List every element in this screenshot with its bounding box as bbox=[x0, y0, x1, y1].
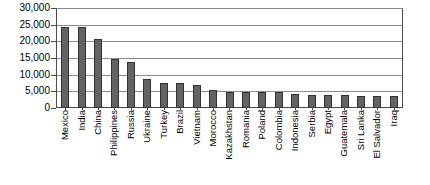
x-tick-label: Ukraine bbox=[142, 110, 152, 143]
bar bbox=[209, 90, 217, 108]
x-tick-label: Mexico bbox=[60, 110, 70, 140]
bar bbox=[111, 59, 119, 108]
y-tick-label: 0 bbox=[0, 103, 50, 113]
x-tick-label: Egypt bbox=[323, 110, 333, 134]
x-tick-label: Philippines bbox=[109, 110, 119, 156]
y-tick-label: 25,000 bbox=[0, 20, 50, 30]
y-tick-label: 20,000 bbox=[0, 36, 50, 46]
bar bbox=[275, 92, 283, 108]
x-axis-label-item: China bbox=[90, 110, 106, 182]
x-tick-label: Brazil bbox=[175, 110, 185, 134]
x-tick-label: Poland bbox=[257, 110, 267, 140]
x-axis-label-item: Colombia bbox=[271, 110, 287, 182]
x-tick-label: Sri Lanka bbox=[356, 110, 366, 150]
x-axis-label-item: Ukraine bbox=[139, 110, 155, 182]
x-tick-label: Kazakhstan bbox=[224, 110, 234, 160]
y-axis: 05,00010,00015,00020,00025,00030,000 bbox=[0, 0, 50, 116]
bar bbox=[78, 27, 86, 109]
x-axis-label-item: Kazakhstan bbox=[221, 110, 237, 182]
bar bbox=[61, 27, 69, 108]
x-axis-label-item: India bbox=[73, 110, 89, 182]
bar bbox=[176, 83, 184, 108]
bar bbox=[193, 85, 201, 108]
x-axis-label-item: Poland bbox=[254, 110, 270, 182]
x-axis-label-item: Serbia bbox=[303, 110, 319, 182]
x-tick-label: Colombia bbox=[274, 110, 284, 150]
x-axis-label-item: Turkey bbox=[156, 110, 172, 182]
x-axis-label-item: Guatemala bbox=[336, 110, 352, 182]
x-axis-label-item: Egypt bbox=[320, 110, 336, 182]
x-tick-label: China bbox=[93, 110, 103, 135]
x-axis-label-item: Mexico bbox=[57, 110, 73, 182]
x-axis-label-item: Russia bbox=[123, 110, 139, 182]
x-tick-label: Morocco bbox=[208, 110, 218, 146]
bars-group bbox=[57, 9, 402, 108]
bar bbox=[127, 62, 135, 108]
x-axis-label-item: Romania bbox=[238, 110, 254, 182]
x-tick-label: Vietnam bbox=[192, 110, 202, 145]
y-tick-label: 10,000 bbox=[0, 70, 50, 80]
bar bbox=[242, 92, 250, 109]
x-axis-category-labels: MexicoIndiaChinaPhilippinesRussiaUkraine… bbox=[57, 110, 402, 185]
bar bbox=[94, 39, 102, 108]
x-tick-label: Serbia bbox=[307, 110, 317, 137]
x-axis-label-item: El Salvador bbox=[369, 110, 385, 182]
y-tick-label: 5,000 bbox=[0, 86, 50, 96]
x-tick-label: Indonesia bbox=[290, 110, 300, 151]
x-axis-label-item: Iraq bbox=[386, 110, 402, 182]
y-tick-label: 15,000 bbox=[0, 53, 50, 63]
bar-chart: 05,00010,00015,00020,00025,00030,000 Mex… bbox=[0, 0, 430, 185]
bar bbox=[143, 79, 151, 108]
x-tick-label: Iraq bbox=[389, 110, 399, 126]
x-tick-label: Turkey bbox=[159, 110, 169, 139]
bar bbox=[226, 92, 234, 109]
y-tick-mark bbox=[51, 108, 56, 109]
bar bbox=[160, 83, 168, 108]
x-axis-label-item: Morocco bbox=[205, 110, 221, 182]
x-axis-label-item: Philippines bbox=[106, 110, 122, 182]
x-tick-label: Russia bbox=[126, 110, 136, 139]
y-tick-label: 30,000 bbox=[0, 3, 50, 13]
x-axis-label-item: Indonesia bbox=[287, 110, 303, 182]
x-axis-label-item: Vietnam bbox=[188, 110, 204, 182]
bar bbox=[258, 92, 266, 109]
x-tick-label: El Salvador bbox=[372, 110, 382, 159]
x-axis-label-item: Brazil bbox=[172, 110, 188, 182]
x-tick-label: Romania bbox=[241, 110, 251, 148]
x-tick-label: India bbox=[77, 110, 87, 131]
bar bbox=[291, 94, 299, 108]
x-tick-label: Guatemala bbox=[339, 110, 349, 156]
x-axis-label-item: Sri Lanka bbox=[353, 110, 369, 182]
